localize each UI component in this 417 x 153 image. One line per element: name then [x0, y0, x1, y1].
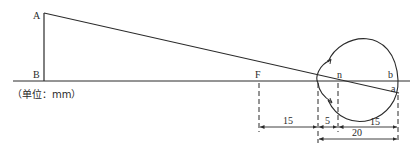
eyeball-outline [328, 39, 398, 122]
label-B: B [33, 69, 40, 80]
label-n: n [337, 69, 342, 80]
eye-model-diagram: A B F n b a （单位：mm） 15 5 15 20 [0, 0, 417, 153]
dim-label-5: 5 [325, 115, 330, 126]
dim-label-15-right: 15 [370, 116, 380, 127]
dim-label-20: 20 [352, 127, 362, 138]
dim-label-15-left: 15 [283, 115, 293, 126]
label-A: A [33, 10, 41, 21]
label-b: b [388, 69, 393, 80]
label-F: F [255, 69, 261, 80]
label-a: a [391, 83, 396, 94]
unit-label: （单位：mm） [12, 88, 81, 100]
